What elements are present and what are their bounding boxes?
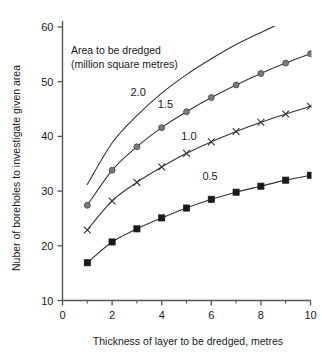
y-axis-label: Nuber of boreholes to investigate given …: [10, 65, 22, 271]
data-point: [233, 82, 239, 88]
data-point: [109, 167, 115, 173]
data-point: [233, 189, 239, 195]
data-point: [183, 205, 189, 211]
data-point: [208, 138, 215, 145]
data-point: [159, 215, 165, 221]
y-tick-label: 10: [41, 295, 53, 307]
x-tick-label: 6: [208, 309, 214, 321]
series-label-1.5: 1.5: [158, 98, 173, 110]
data-point: [283, 60, 289, 66]
series-0.5: [84, 172, 313, 266]
y-tick-label: 60: [41, 21, 53, 33]
data-point: [84, 260, 90, 266]
data-point: [184, 109, 190, 115]
series-line-1.0: [87, 106, 310, 230]
y-tick-label: 20: [41, 240, 53, 252]
data-point: [282, 111, 289, 118]
data-point: [134, 144, 140, 150]
series-2.0: [87, 11, 310, 184]
chart-figure: 1020304050600246810 2.01.51.00.5 Area to…: [0, 0, 322, 361]
series-label-0.5: 0.5: [202, 170, 217, 182]
data-point: [258, 119, 265, 126]
y-tick-label: 50: [41, 76, 53, 88]
y-tick-label: 30: [41, 185, 53, 197]
data-point: [134, 179, 141, 186]
chart-canvas: 1020304050600246810 2.01.51.00.5 Area to…: [0, 0, 322, 361]
series-line-0.5: [87, 175, 310, 263]
x-tick-label: 8: [258, 309, 264, 321]
data-point: [258, 183, 264, 189]
data-point: [308, 51, 314, 57]
data-point: [208, 95, 214, 101]
series-1.5: [84, 51, 313, 209]
x-tick-label: 0: [59, 309, 65, 321]
data-point: [283, 177, 289, 183]
data-point: [307, 103, 314, 110]
x-tick-label: 10: [304, 309, 316, 321]
x-tick-label: 2: [109, 309, 115, 321]
series-label-1.0: 1.0: [181, 130, 196, 142]
annotation-title: Area to be dredged: [71, 44, 161, 56]
data-point: [84, 202, 90, 208]
data-point: [134, 226, 140, 232]
y-tick-label: 40: [41, 130, 53, 142]
x-axis-label: Thickness of layer to be dredged, metres: [93, 335, 283, 347]
series-line-2.0: [87, 11, 310, 184]
data-point: [84, 227, 91, 234]
data-point: [109, 198, 116, 205]
data-point: [109, 239, 115, 245]
data-point: [158, 164, 165, 171]
series-label-2.0: 2.0: [130, 86, 145, 98]
data-point: [258, 70, 264, 76]
data-point: [307, 172, 313, 178]
annotation-subtitle: (million square metres): [71, 58, 178, 70]
data-point: [233, 128, 240, 135]
data-point: [183, 150, 190, 157]
x-tick-label: 4: [159, 309, 165, 321]
series-1.0: [84, 103, 314, 233]
data-point: [159, 125, 165, 131]
data-point: [208, 196, 214, 202]
